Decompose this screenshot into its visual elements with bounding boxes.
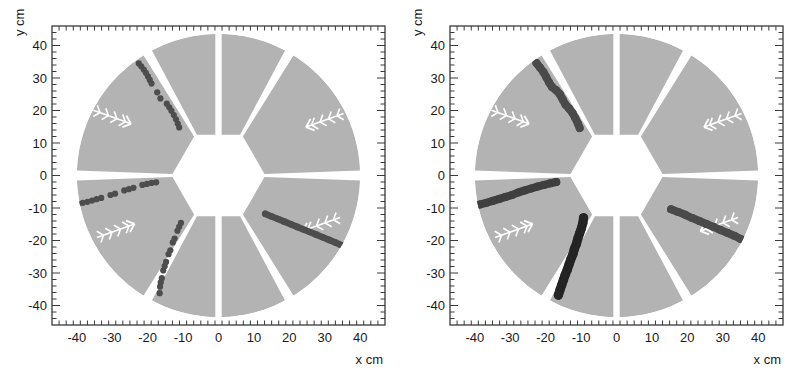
y-tick-label: 10 <box>431 136 445 151</box>
y-tick-label: -30 <box>426 266 445 281</box>
y-tick-label: 20 <box>431 103 445 118</box>
hit-point <box>157 284 163 290</box>
detector-sectors <box>77 32 360 319</box>
hit-point <box>717 226 725 234</box>
y-tick-label: -10 <box>28 201 47 216</box>
hit-point <box>710 223 718 231</box>
hit-point <box>724 229 732 237</box>
x-tick-label: -20 <box>138 330 157 345</box>
x-tick-label: -40 <box>465 330 484 345</box>
hit-point <box>148 80 154 86</box>
hit-point <box>307 229 314 236</box>
y-tick-label: -20 <box>426 233 445 248</box>
y-tick-label: -10 <box>426 201 445 216</box>
y-tick-label: 0 <box>438 168 445 183</box>
x-tick-label: 40 <box>751 330 765 345</box>
hit-point <box>737 235 745 243</box>
x-tick-label: 30 <box>318 330 332 345</box>
x-tick-label: -10 <box>572 330 591 345</box>
figure-root: -40-30-20-10010203040403020100-10-20-30-… <box>0 0 795 381</box>
hit-point <box>153 179 159 185</box>
x-tick-label: -10 <box>174 330 193 345</box>
y-tick-label: -20 <box>28 233 47 248</box>
hit-point <box>332 239 339 246</box>
hit-point <box>281 218 288 225</box>
hit-point <box>576 124 584 132</box>
x-tick-label: -20 <box>536 330 555 345</box>
y-tick-label: 30 <box>431 71 445 86</box>
x-tick-label: -40 <box>67 330 86 345</box>
x-tick-label: -30 <box>501 330 520 345</box>
y-tick-label: 0 <box>40 168 47 183</box>
y-axis-title: y cm <box>410 9 425 36</box>
x-tick-label: 0 <box>613 330 620 345</box>
x-tick-label: 10 <box>247 330 261 345</box>
detector-sectors <box>475 32 758 319</box>
hit-point <box>326 237 333 244</box>
hit-point <box>702 220 710 228</box>
hit-point <box>165 251 171 257</box>
vertical-split-gap <box>613 32 619 319</box>
x-tick-label: 10 <box>645 330 659 345</box>
x-tick-label: -30 <box>103 330 122 345</box>
x-tick-label: 40 <box>353 330 367 345</box>
hit-point <box>552 178 560 186</box>
hit-point <box>470 202 478 210</box>
y-axis-title: y cm <box>12 9 27 36</box>
y-tick-label: -40 <box>28 298 47 313</box>
hit-point <box>300 226 307 233</box>
hit-point <box>262 211 269 218</box>
hit-point <box>688 214 696 222</box>
event-display-svg-left: -40-30-20-10010203040403020100-10-20-30-… <box>0 0 397 381</box>
hit-point <box>268 213 275 220</box>
x-tick-label: 0 <box>215 330 222 345</box>
hit-point <box>681 211 689 219</box>
hit-point <box>112 191 118 197</box>
y-tick-label: 10 <box>33 136 47 151</box>
hit-point <box>157 95 163 101</box>
hit-point <box>313 231 320 238</box>
hit-point <box>174 228 180 234</box>
x-axis-title: x cm <box>356 352 383 367</box>
hit-point <box>275 216 282 223</box>
y-tick-label: 40 <box>431 38 445 53</box>
y-tick-label: -40 <box>426 298 445 313</box>
event-display-svg-right: -40-30-20-10010203040403020100-10-20-30-… <box>398 0 795 381</box>
x-tick-label: 20 <box>680 330 694 345</box>
hit-point <box>338 242 345 249</box>
x-tick-label: 30 <box>716 330 730 345</box>
hit-point <box>674 208 682 216</box>
vertical-split-gap <box>215 32 221 319</box>
hit-point <box>695 217 703 225</box>
y-tick-label: 20 <box>33 103 47 118</box>
y-tick-label: 40 <box>33 38 47 53</box>
hit-point <box>154 89 160 95</box>
hit-point <box>667 205 675 213</box>
hit-point <box>294 224 301 231</box>
hit-point <box>287 221 294 228</box>
event-display-panel-right: -40-30-20-10010203040403020100-10-20-30-… <box>398 0 795 381</box>
hit-point <box>176 124 182 130</box>
hit-point <box>98 195 104 201</box>
hit-point <box>130 185 136 191</box>
x-axis-title: x cm <box>754 352 781 367</box>
hit-point <box>319 234 326 241</box>
hit-point <box>157 290 163 296</box>
y-tick-label: 30 <box>33 71 47 86</box>
hit-point <box>170 239 176 245</box>
event-display-panel-left: -40-30-20-10010203040403020100-10-20-30-… <box>0 0 397 381</box>
x-tick-label: 20 <box>282 330 296 345</box>
y-tick-label: -30 <box>28 266 47 281</box>
hit-point <box>554 291 563 300</box>
hit-point <box>160 267 166 273</box>
